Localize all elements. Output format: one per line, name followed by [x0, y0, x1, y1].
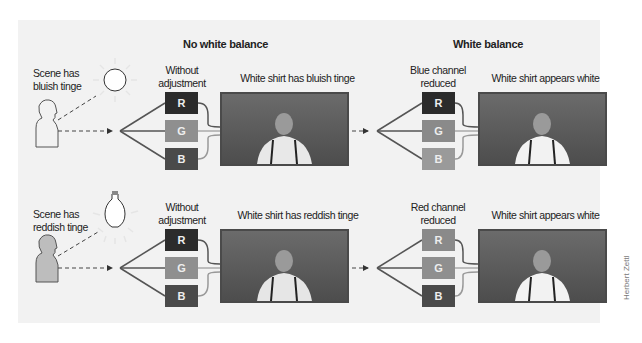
photo-bluish-tinge	[220, 92, 349, 166]
person-photo-icon	[480, 231, 605, 301]
person-photo-icon	[222, 94, 347, 164]
light-bulb-icon	[93, 191, 138, 244]
channel-r-box: R	[165, 229, 198, 251]
person-photo-icon	[480, 94, 605, 164]
person-icon-row1	[36, 100, 58, 147]
channel-r-box: R	[422, 229, 455, 251]
left-channel-label-row2: Without adjustment	[156, 201, 208, 227]
right-photo-caption-row1: White shirt appears white	[478, 72, 613, 85]
right-photo-caption-row2: White shirt appears white	[478, 209, 613, 222]
photo-white-corrected	[478, 92, 607, 166]
channel-b-box: B	[422, 148, 455, 170]
channel-b-box: B	[422, 285, 455, 307]
photo-white-corrected	[478, 229, 607, 303]
channel-r-box: R	[422, 92, 455, 114]
channel-g-box: G	[165, 120, 198, 142]
right-channel-label-row1: Blue channel reduced	[403, 64, 473, 90]
left-photo-caption-row1: White shirt has bluish tinge	[230, 72, 365, 85]
person-icon-row2	[36, 235, 58, 282]
right-channel-label-row2: Red channel reduced	[403, 201, 473, 227]
sun-icon	[93, 58, 137, 102]
person-photo-icon	[222, 231, 347, 301]
channel-g-box: G	[165, 257, 198, 279]
scene-label-row1: Scene has bluish tinge	[33, 67, 81, 93]
photo-reddish-tinge	[220, 229, 349, 303]
scene-label-row2: Scene has reddish tinge	[33, 208, 88, 234]
channel-g-box: G	[422, 120, 455, 142]
channel-g-box: G	[422, 257, 455, 279]
channel-b-box: B	[165, 285, 198, 307]
channel-r-box: R	[165, 92, 198, 114]
photo-credit: Herbert Zettl	[622, 256, 631, 300]
left-photo-caption-row2: White shirt has reddish tinge	[228, 209, 368, 222]
channel-b-box: B	[165, 148, 198, 170]
left-channel-label-row1: Without adjustment	[156, 64, 208, 90]
